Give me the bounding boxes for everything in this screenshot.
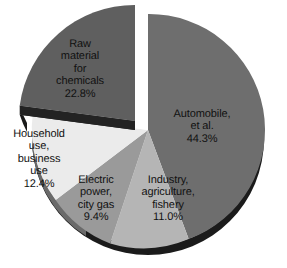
- pie-slice-raw-material-exploded-group: [20, 5, 135, 132]
- pie-chart: Automobile, et al. 44.3% Raw material fo…: [0, 0, 287, 268]
- pie-chart-canvas: [0, 0, 287, 268]
- pie-explode-gap: [135, 5, 141, 121]
- pie-slice-raw-material-for-chemicals: [20, 5, 135, 121]
